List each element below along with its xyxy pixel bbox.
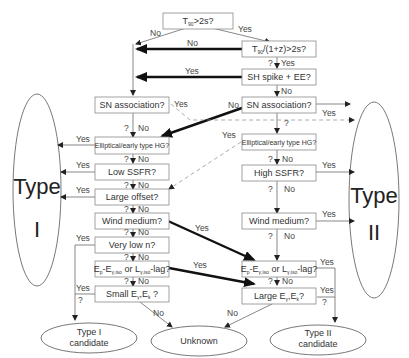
- type-ii-label: Type: [350, 183, 398, 208]
- label-q: ?: [268, 184, 273, 194]
- label-q: ?: [268, 58, 273, 68]
- svg-text:Type II: Type II: [304, 328, 331, 338]
- node-low-ssfr: Low SSFR?: [95, 164, 169, 180]
- svg-text:Elliptical/early type HG?: Elliptical/early type HG?: [95, 142, 169, 150]
- label-no: No: [227, 308, 238, 318]
- svg-text:Large offset?: Large offset?: [106, 192, 158, 202]
- label-yes: Yes: [76, 283, 90, 293]
- label-yes: Yes: [281, 58, 295, 68]
- svg-text:Wind medium?: Wind medium?: [249, 216, 309, 226]
- node-elliptical-right: Elliptical/early type HG?: [242, 134, 316, 150]
- svg-text:T90>2s?: T90>2s?: [183, 16, 214, 27]
- svg-text:Low SSFR?: Low SSFR?: [108, 167, 156, 177]
- node-sn-association-left: SN association?: [95, 97, 169, 113]
- outcome-type-ii-candidate: Type II candidate: [270, 325, 366, 355]
- svg-text:SN association?: SN association?: [246, 100, 311, 110]
- label-yes: Yes: [222, 130, 236, 140]
- label-yes: Yes: [322, 108, 336, 118]
- node-wind-medium-left: Wind medium?: [95, 213, 169, 229]
- outcome-type-i-candidate: Type I candidate: [41, 323, 137, 353]
- type-i-numeral: I: [34, 217, 40, 242]
- label-no: No: [282, 154, 293, 164]
- node-t90: T90>2s?: [163, 13, 233, 29]
- svg-text:Type I: Type I: [77, 327, 102, 337]
- label-q: ?: [124, 180, 129, 190]
- type-ii-ellipse: Type II: [349, 102, 399, 298]
- label-no: No: [138, 252, 149, 262]
- node-large-e: Large Eγ,Ek?: [242, 288, 316, 304]
- node-very-low-n: Very low n?: [95, 237, 169, 253]
- edge-lag-right-yes: [317, 268, 335, 322]
- label-no: No: [138, 154, 149, 164]
- node-high-ssfr: High SSFR?: [242, 165, 316, 181]
- node-sn-association-right: SN association?: [242, 97, 316, 113]
- label-no: No: [228, 100, 239, 110]
- label-q: ?: [124, 276, 129, 286]
- node-lag-left: Ep-Eγ,iso or Lγ,iso-lag?: [94, 261, 170, 277]
- node-elliptical-left: Elliptical/early type HG?: [95, 137, 169, 154]
- outcome-unknown: Unknown: [151, 326, 247, 356]
- label-no: No: [281, 86, 292, 96]
- svg-text:candidate: candidate: [298, 339, 337, 349]
- label-q: ?: [124, 204, 129, 214]
- node-sh-spike: SH spike + EE?: [242, 69, 316, 85]
- label-q: ?: [284, 118, 289, 128]
- label-q: ?: [268, 276, 273, 286]
- label-q: ?: [268, 154, 273, 164]
- label-yes: Yes: [320, 285, 334, 295]
- label-no: No: [282, 276, 293, 286]
- svg-text:candidate: candidate: [69, 338, 108, 348]
- svg-text:Wind medium?: Wind medium?: [102, 216, 162, 226]
- label-no: No: [153, 308, 164, 318]
- label-q: ?: [124, 252, 129, 262]
- edge-wind-left-yes: [168, 221, 254, 260]
- label-no: No: [138, 276, 149, 286]
- svg-text:Unknown: Unknown: [180, 336, 218, 346]
- edge-ell-right-yes: [169, 142, 241, 189]
- label-t90-yes: Yes: [238, 24, 252, 34]
- label-q: ?: [322, 297, 327, 307]
- node-large-offset: Large offset?: [95, 189, 169, 205]
- label-yes: Yes: [193, 260, 207, 270]
- node-lag-right: Ep-Eγ,iso or Lγ,iso-lag?: [241, 261, 317, 277]
- label-no: No: [138, 123, 149, 133]
- label-yes: Yes: [174, 99, 188, 109]
- label-yes: Yes: [195, 223, 209, 233]
- label-no: No: [284, 184, 295, 194]
- svg-text:Very low n?: Very low n?: [109, 240, 156, 250]
- label-q: ?: [78, 295, 83, 305]
- label-yes: Yes: [322, 209, 336, 219]
- label-no: No: [284, 231, 295, 241]
- label-sh-yes: Yes: [185, 66, 199, 76]
- label-yes: Yes: [320, 257, 334, 267]
- svg-text:SN association?: SN association?: [99, 100, 164, 110]
- svg-text:Elliptical/early type HG?: Elliptical/early type HG?: [242, 139, 316, 147]
- node-wind-medium-right: Wind medium?: [242, 213, 316, 229]
- label-t90-no: No: [150, 28, 161, 38]
- svg-text:Ep-Eγ,iso or Lγ,iso-lag?: Ep-Eγ,iso or Lγ,iso-lag?: [94, 264, 170, 275]
- label-yes: Yes: [76, 134, 90, 144]
- svg-text:SH spike + EE?: SH spike + EE?: [247, 72, 310, 82]
- label-yes: Yes: [76, 185, 90, 195]
- label-yes: Yes: [76, 160, 90, 170]
- flowchart: Type I Type II No Yes No Yes ? Yes No Ye…: [0, 0, 409, 358]
- label-no: No: [138, 204, 149, 214]
- label-q: ?: [124, 123, 129, 133]
- node-t90-redshift: T90/(1+z)>2s?: [242, 41, 316, 57]
- label-t90z-no: No: [187, 38, 198, 48]
- svg-text:Ep-Eγ,iso or Lγ,iso-lag?: Ep-Eγ,iso or Lγ,iso-lag?: [241, 264, 317, 275]
- svg-text:Small Eγ,Ek ?: Small Eγ,Ek ?: [106, 289, 158, 300]
- node-small-e: Small Eγ,Ek ?: [95, 286, 169, 302]
- edge-t90-no: [136, 28, 186, 44]
- label-no: No: [138, 180, 149, 190]
- type-ii-numeral: II: [368, 220, 380, 245]
- label-q: ?: [124, 154, 129, 164]
- type-i-ellipse: Type I: [13, 94, 61, 286]
- label-yes: Yes: [322, 160, 336, 170]
- label-q: ?: [268, 231, 273, 241]
- svg-text:High SSFR?: High SSFR?: [254, 168, 304, 178]
- type-i-label: Type: [13, 174, 61, 199]
- label-yes: Yes: [76, 233, 90, 243]
